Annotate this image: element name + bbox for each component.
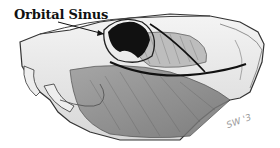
orbital-sinus-label: Orbital Sinus [14,7,108,22]
